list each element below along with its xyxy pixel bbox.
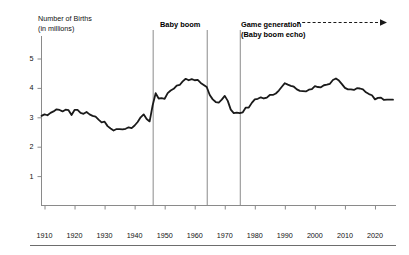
births-chart-figure: Number of Births (in millions) Baby boom… (0, 0, 409, 255)
y-tick-label: 2 (20, 142, 34, 151)
y-tick-label: 3 (20, 113, 34, 122)
dashed-arrow-group (297, 19, 387, 26)
x-tick-label: 1920 (60, 231, 90, 240)
dashed-arrow-head (380, 19, 387, 26)
x-ticks-group (45, 206, 375, 210)
x-tick-label: 1950 (150, 231, 180, 240)
y-ticks-group (38, 59, 42, 177)
x-tick-label: 1940 (120, 231, 150, 240)
births-line-series (42, 78, 394, 130)
y-tick-label: 1 (20, 172, 34, 181)
y-tick-label: 4 (20, 83, 34, 92)
bottom-divider-rule (30, 245, 396, 246)
x-tick-label: 1990 (270, 231, 300, 240)
annotation-lines-group (153, 30, 240, 206)
x-tick-label: 1980 (240, 231, 270, 240)
y-tick-label: 5 (20, 54, 34, 63)
x-tick-label: 1960 (180, 231, 210, 240)
x-tick-label: 1930 (90, 231, 120, 240)
x-tick-label: 2000 (300, 231, 330, 240)
axes-group (42, 36, 397, 206)
plot-area (0, 0, 409, 255)
x-tick-label: 2010 (330, 231, 360, 240)
births-line-path (42, 78, 394, 130)
x-tick-label: 1910 (30, 231, 60, 240)
x-tick-label: 2020 (360, 231, 390, 240)
x-tick-label: 1970 (210, 231, 240, 240)
